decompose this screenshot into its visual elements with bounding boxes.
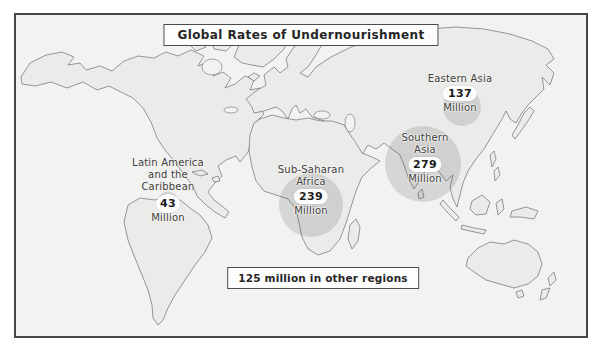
black-sea (314, 111, 330, 119)
region-name-line: Asia (401, 144, 448, 156)
region-unit: Million (132, 212, 204, 224)
undernourishment-infographic: Eastern Asia 137 Million Southern Asia 2… (0, 0, 600, 352)
new-guinea (510, 207, 538, 219)
other-regions-note: 125 million in other regions (227, 267, 419, 289)
java (461, 225, 486, 234)
region-name-line: Sub-Saharan (278, 164, 344, 176)
map-frame: Eastern Asia 137 Million Southern Asia 2… (14, 13, 588, 338)
new-zealand (548, 272, 556, 286)
region-name-line: Southern (401, 132, 448, 144)
australia-landmass (466, 240, 542, 288)
value-pill-latin-america: 43 (156, 194, 180, 213)
region-label-sub-saharan-africa: Sub-Saharan Africa 239 Million (278, 164, 344, 217)
region-name-line: Caribbean (132, 181, 204, 193)
value-pill-southern-asia: 279 (408, 157, 442, 172)
region-name-line: Africa (278, 176, 344, 188)
tasmania (516, 290, 524, 298)
region-label-latin-america: Latin America and the Caribbean 43 Milli… (132, 157, 204, 224)
hudson-bay (202, 59, 222, 75)
sulawesi (496, 199, 504, 215)
region-name-line: Latin America (132, 157, 204, 169)
region-name-line: and the (132, 169, 204, 181)
region-unit: Million (428, 102, 493, 114)
value-pill-eastern-asia: 137 (443, 86, 477, 101)
new-zealand (540, 288, 550, 300)
value-pill-sub-saharan-africa: 239 (294, 189, 328, 204)
region-name-line: Eastern Asia (428, 73, 493, 85)
region-unit: Million (278, 205, 344, 217)
region-label-eastern-asia: Eastern Asia 137 Million (428, 73, 493, 114)
madagascar (348, 219, 360, 249)
region-label-southern-asia: Southern Asia 279 Million (401, 132, 448, 185)
region-unit: Million (401, 173, 448, 185)
borneo (470, 195, 490, 215)
philippines (490, 151, 496, 167)
great-lakes (224, 107, 238, 113)
philippines (494, 167, 500, 181)
page-title: Global Rates of Undernourishment (163, 24, 438, 46)
